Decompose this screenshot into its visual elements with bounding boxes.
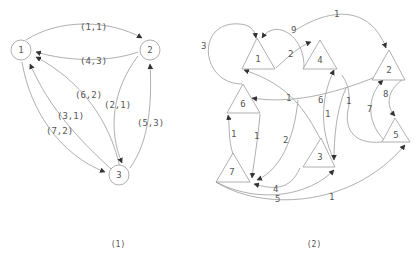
- edge-label-6-7: 1: [254, 131, 259, 141]
- edge-label-5-2: 7: [367, 104, 372, 114]
- node-5: 5: [382, 118, 410, 142]
- edge-5-2: [371, 80, 384, 140]
- edge-2-5: [389, 80, 402, 116]
- edge-6-1: [208, 24, 256, 84]
- node-label: 7: [229, 167, 234, 177]
- node-3: 3: [109, 165, 129, 185]
- edge-label-3-2: (5,3): [137, 118, 164, 128]
- edge-label-7-3: 5: [275, 194, 280, 204]
- edge-label-4-1: 9: [291, 25, 296, 35]
- edge-5-3-b: [334, 88, 346, 160]
- node-7: 7: [216, 153, 250, 182]
- node-4: 4: [303, 40, 337, 69]
- node-1: 1: [242, 38, 275, 69]
- edge-label-1-3: (7,2): [46, 126, 73, 136]
- node-label: 2: [386, 65, 391, 75]
- graph-1-caption: (1): [111, 240, 125, 249]
- node-label: 2: [147, 45, 152, 55]
- edge-label-3-1: 1: [286, 93, 291, 103]
- node-2: 2: [140, 40, 160, 60]
- edge-4-7: [257, 100, 298, 180]
- edge-label-3-4: 1: [325, 109, 330, 119]
- edge-label-3-7: 4: [273, 184, 278, 194]
- node-label: 3: [116, 170, 121, 180]
- edge-label-7-5: 1: [329, 192, 334, 202]
- node-2: 2: [372, 50, 405, 80]
- edge-label-1-2: 1: [334, 9, 339, 19]
- graph-2: 3 9 2 1 1 6 1 1 7 8 1 1: [201, 9, 410, 249]
- graph-1: (1,1) (4,3) (6,2) (2,1) (3,1) (7,2) (5,3…: [11, 22, 164, 249]
- edge-label-2-5: 8: [383, 89, 388, 99]
- diagram-canvas: (1,1) (4,3) (6,2) (2,1) (3,1) (7,2) (5,3…: [0, 0, 420, 260]
- edge-label-2-6: 6: [318, 95, 323, 105]
- node-label: 4: [317, 55, 322, 65]
- edge-label-6-1: 3: [201, 41, 206, 51]
- edge-3-2: [130, 64, 151, 168]
- edge-label-2-3: (2,1): [104, 100, 131, 110]
- graph-2-caption: (2): [307, 240, 321, 249]
- node-1: 1: [11, 40, 31, 60]
- edge-6-7: [252, 114, 260, 178]
- node-label: 1: [255, 54, 260, 64]
- edge-label-3-1-a: (6,2): [75, 90, 102, 100]
- edge-label-1-4: 2: [288, 49, 293, 59]
- node-label: 3: [317, 152, 322, 162]
- edge-label-2-1: (4,3): [80, 56, 107, 66]
- node-label: 1: [18, 45, 23, 55]
- edge-5-3: [342, 75, 382, 142]
- node-label: 5: [393, 130, 398, 140]
- node-3: 3: [303, 138, 335, 167]
- edge-label-7-6: 1: [231, 129, 236, 139]
- edge-label-1-2: (1,1): [80, 22, 107, 32]
- edge-label-4-7: 2: [283, 135, 288, 145]
- edge-label-5-3: 1: [346, 96, 351, 106]
- edge-label-3-1-b: (3,1): [57, 111, 84, 121]
- node-label: 6: [240, 99, 245, 109]
